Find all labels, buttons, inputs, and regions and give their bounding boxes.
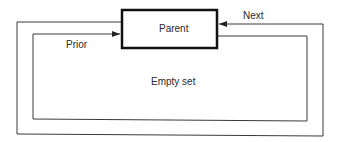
prior-edge-label: Prior [66, 40, 87, 50]
parent-node-label: Parent [159, 24, 188, 34]
diagram-lines [0, 0, 342, 142]
next-edge-label: Next [243, 11, 264, 21]
empty-set-label: Empty set [151, 77, 195, 87]
diagram-canvas: Parent Next Prior Empty set [0, 0, 342, 142]
